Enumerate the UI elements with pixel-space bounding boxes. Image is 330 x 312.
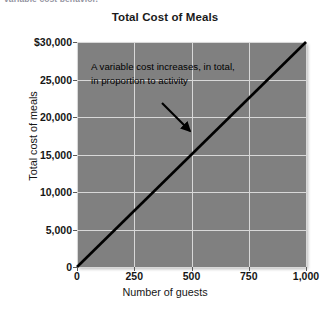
gridline-vertical xyxy=(306,42,307,267)
chart-title: Total Cost of Meals xyxy=(0,11,330,23)
x-axis-tick-label: 1,000 xyxy=(276,270,330,282)
y-axis-title: Total cost of meals xyxy=(27,41,39,231)
x-axis-tick-mark xyxy=(77,267,78,271)
page-running-text: variable cost behavior. xyxy=(4,0,224,4)
x-axis-tick-mark xyxy=(134,267,135,271)
y-axis-tick-mark xyxy=(73,155,77,156)
x-axis-tick-label: 250 xyxy=(104,270,164,282)
x-axis-tick-mark xyxy=(306,267,307,271)
y-axis-tick-mark xyxy=(73,80,77,81)
x-axis-tick-mark xyxy=(249,267,250,271)
y-axis-tick-mark xyxy=(73,192,77,193)
y-axis-tick-mark xyxy=(73,42,77,43)
x-axis-tick-mark xyxy=(192,267,193,271)
x-axis-tick-label: 0 xyxy=(47,270,107,282)
y-axis-tick-mark xyxy=(73,230,77,231)
annotation-arrow-icon xyxy=(77,42,306,267)
plot-area: A variable cost increases, in total, in … xyxy=(77,42,306,267)
y-axis-tick-mark xyxy=(73,117,77,118)
x-axis-tick-label: 500 xyxy=(162,270,222,282)
x-axis-title: Number of guests xyxy=(0,286,330,298)
x-axis-tick-label: 750 xyxy=(219,270,279,282)
